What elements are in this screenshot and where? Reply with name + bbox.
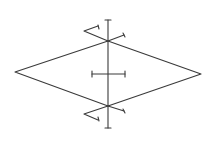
construction-mark-bottom-right	[108, 106, 124, 111]
construction-mark-bottom-left	[84, 106, 108, 120]
construction-mark-top-right	[108, 35, 124, 41]
construction-diagram	[0, 0, 215, 149]
tick-top-left-end	[98, 25, 99, 29]
construction-mark-top-left	[84, 26, 108, 41]
